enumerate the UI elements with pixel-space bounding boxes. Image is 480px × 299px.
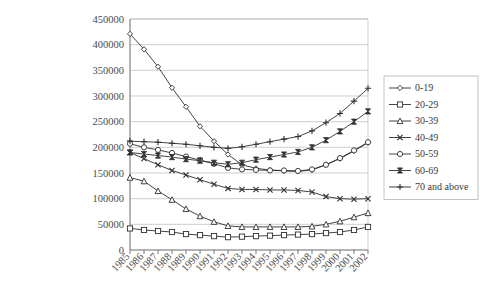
y-tick-label: 300000	[93, 91, 125, 102]
y-tick-label: 150000	[93, 168, 125, 179]
series-marker	[267, 139, 273, 145]
series-marker	[155, 162, 160, 167]
series-line	[130, 227, 368, 237]
series-marker	[337, 129, 342, 134]
series-marker	[155, 139, 161, 145]
series-marker	[351, 227, 356, 232]
series-line	[130, 178, 368, 227]
series-marker	[267, 168, 272, 173]
series-marker	[183, 206, 189, 212]
line-chart: 0500001000001500002000002500003000003500…	[0, 0, 480, 299]
series-marker	[155, 228, 160, 233]
legend-label: 60-69	[415, 165, 438, 176]
series-marker	[309, 128, 315, 134]
series-line	[130, 88, 368, 148]
series-marker	[365, 210, 371, 216]
legend-label: 70 and above	[415, 181, 469, 192]
series-marker	[295, 232, 300, 237]
y-tick-label: 450000	[93, 14, 125, 25]
legend-label: 40-49	[415, 132, 438, 143]
series-0-19	[127, 31, 370, 174]
series-marker	[197, 143, 203, 149]
series-marker	[239, 234, 244, 239]
series-marker	[225, 235, 230, 240]
series-marker	[169, 197, 175, 203]
series-marker	[365, 224, 370, 229]
series-marker	[211, 219, 217, 225]
series-marker	[281, 233, 286, 238]
series-marker	[155, 188, 161, 194]
series-marker	[183, 231, 188, 236]
y-tick-label: 50000	[98, 219, 124, 230]
series-marker	[365, 140, 370, 145]
series-marker	[253, 234, 258, 239]
series-marker	[295, 133, 301, 139]
series-marker	[253, 141, 259, 147]
series-marker	[141, 145, 146, 150]
series-marker	[141, 139, 147, 145]
chart-canvas: 0500001000001500002000002500003000003500…	[0, 0, 480, 299]
series-marker	[253, 167, 258, 172]
series-marker	[169, 168, 174, 173]
series-70-and-above	[127, 85, 371, 151]
series-marker	[267, 233, 272, 238]
series-marker	[309, 167, 314, 172]
series-marker	[225, 145, 231, 151]
series-marker	[351, 148, 356, 153]
series-30-39	[127, 175, 371, 230]
series-marker	[127, 226, 132, 231]
series-marker	[281, 136, 287, 142]
y-tick-label: 200000	[93, 142, 125, 153]
series-marker	[141, 227, 146, 232]
series-40-49	[127, 150, 370, 202]
series-marker	[183, 141, 189, 147]
series-line	[130, 34, 368, 172]
series-line	[130, 111, 368, 164]
y-axis-gridlines	[130, 19, 368, 224]
y-tick-label: 400000	[93, 39, 125, 50]
y-axis: 0500001000001500002000002500003000003500…	[93, 14, 131, 256]
x-axis: 1985198619871988198919901991199219931994…	[109, 250, 369, 274]
series-marker	[323, 120, 329, 126]
series-marker	[211, 234, 216, 239]
legend-label: 50-59	[415, 148, 438, 159]
series-marker	[169, 140, 175, 146]
series-marker	[281, 168, 286, 173]
legend-marker-circle-icon	[397, 151, 402, 156]
series-marker	[323, 162, 328, 167]
series-marker	[197, 233, 202, 238]
series-marker	[323, 138, 328, 143]
series-marker	[197, 213, 203, 219]
y-tick-label: 250000	[93, 116, 125, 127]
series-marker	[239, 167, 244, 172]
y-tick-label: 350000	[93, 65, 125, 76]
series-marker	[211, 144, 217, 150]
series-marker	[211, 182, 216, 187]
series-marker	[365, 109, 370, 114]
chart-legend: 0-1920-2930-3940-4950-5960-6970 and abov…	[384, 76, 478, 200]
legend-label: 20-29	[415, 99, 438, 110]
series-marker	[295, 168, 300, 173]
legend-marker-square-icon	[397, 102, 402, 107]
series-marker	[309, 231, 314, 236]
series-marker	[197, 177, 202, 182]
series-marker	[169, 229, 174, 234]
series-marker	[337, 229, 342, 234]
series-marker	[337, 156, 342, 161]
legend-label: 30-39	[415, 115, 438, 126]
series-marker	[239, 144, 245, 150]
series-line	[130, 152, 368, 199]
series-marker	[323, 230, 328, 235]
y-tick-label: 100000	[93, 193, 125, 204]
series-marker	[127, 175, 133, 181]
legend-label: 0-19	[415, 82, 433, 93]
series-marker	[155, 147, 160, 152]
